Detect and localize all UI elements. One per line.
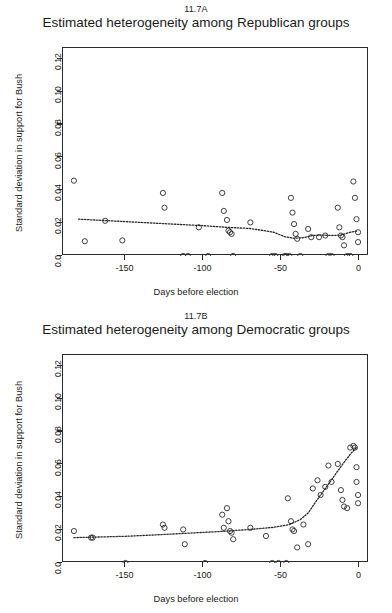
x-tick-mark [280,255,281,260]
panel-id-b: 11.7B [0,311,392,321]
data-point [71,528,76,533]
plot-area-a [62,47,368,255]
data-point [288,195,293,200]
x-tick-label: 0 [339,570,379,580]
data-point [206,253,211,256]
data-point [295,236,300,241]
data-point [162,525,167,530]
x-axis-title-a: Days before election [0,287,392,297]
data-point [355,501,360,506]
y-tick-label: 0.10 [53,86,63,103]
data-point [248,220,253,225]
data-point [316,235,321,240]
data-point [354,479,359,484]
data-point [338,488,343,493]
data-point [326,463,331,468]
x-axis-title-b: Days before election [0,594,392,604]
panel-id-a: 11.7A [0,4,392,14]
data-point [221,208,226,213]
data-point [341,243,346,248]
y-tick-label: 0.0 [53,562,63,574]
data-point [301,522,306,527]
data-point [315,478,320,483]
y-tick-label: 0.06 [53,152,63,169]
y-tick-label: 0.02 [53,525,63,542]
data-point [71,178,76,183]
data-point [295,545,300,550]
data-point [182,542,187,547]
y-tick-label: 0.10 [53,393,63,410]
data-point [341,504,346,509]
data-point [306,226,311,231]
data-point [231,537,236,542]
data-point [273,253,278,256]
data-point [352,195,357,200]
x-tick-label: -150 [104,570,144,580]
trend-line [79,219,357,238]
x-tick-label: -50 [261,263,301,273]
data-point [355,230,360,235]
plot-canvas-b [63,355,369,563]
data-point [202,560,207,563]
trend-line [74,448,357,538]
y-tick-label: 0.08 [53,119,63,136]
chart-panel-democratic: 11.7B Estimated heterogeneity among Demo… [0,307,392,613]
data-point [284,560,289,563]
data-point [348,253,353,256]
y-axis-title-a: Standard deviation in support for Bush [14,74,24,232]
data-point [354,465,359,470]
data-point [231,253,236,256]
data-point [351,179,356,184]
data-point [220,190,225,195]
x-tick-mark [280,562,281,567]
data-point [285,496,290,501]
y-tick-label: 0.02 [53,218,63,235]
y-tick-label: 0.08 [53,426,63,443]
plot-canvas-a [63,48,369,256]
data-point [220,512,225,517]
data-point [162,205,167,210]
data-point [345,506,350,511]
data-point [291,221,296,226]
data-point [160,190,165,195]
panel-title-b: Estimated heterogeneity among Democratic… [0,322,392,337]
data-point [290,210,295,215]
data-point [181,527,186,532]
data-point [160,522,165,527]
data-point [226,519,231,524]
data-point [310,486,315,491]
data-point [298,253,303,256]
chart-panel-republican: 11.7A Estimated heterogeneity among Repu… [0,0,392,306]
x-tick-mark [124,255,125,260]
x-tick-label: -100 [183,570,223,580]
x-tick-label: -150 [104,263,144,273]
x-tick-label: -50 [261,570,301,580]
data-point [221,525,226,530]
y-tick-label: 0.06 [53,459,63,476]
data-point [329,253,334,256]
y-tick-label: 0.04 [53,492,63,509]
y-axis-title-b: Standard deviation in support for Bush [14,381,24,539]
x-tick-mark [358,562,359,567]
data-point [337,225,342,230]
data-point [82,239,87,244]
x-tick-mark [202,562,203,567]
y-tick-label: 0.0 [53,255,63,267]
y-tick-label: 0.04 [53,185,63,202]
y-tick-label: 0.12 [53,54,63,71]
data-point [263,533,268,538]
data-point [340,497,345,502]
data-point [318,492,323,497]
panel-title-a: Estimated heterogeneity among Republican… [0,15,392,30]
data-point [288,519,293,524]
x-tick-label: 0 [339,263,379,273]
x-tick-mark [202,255,203,260]
x-tick-label: -100 [183,263,223,273]
data-point [270,560,275,563]
data-point [224,217,229,222]
plot-area-b [62,354,368,562]
data-point [335,205,340,210]
data-point [293,231,298,236]
data-point [355,239,360,244]
y-tick-label: 0.12 [53,361,63,378]
